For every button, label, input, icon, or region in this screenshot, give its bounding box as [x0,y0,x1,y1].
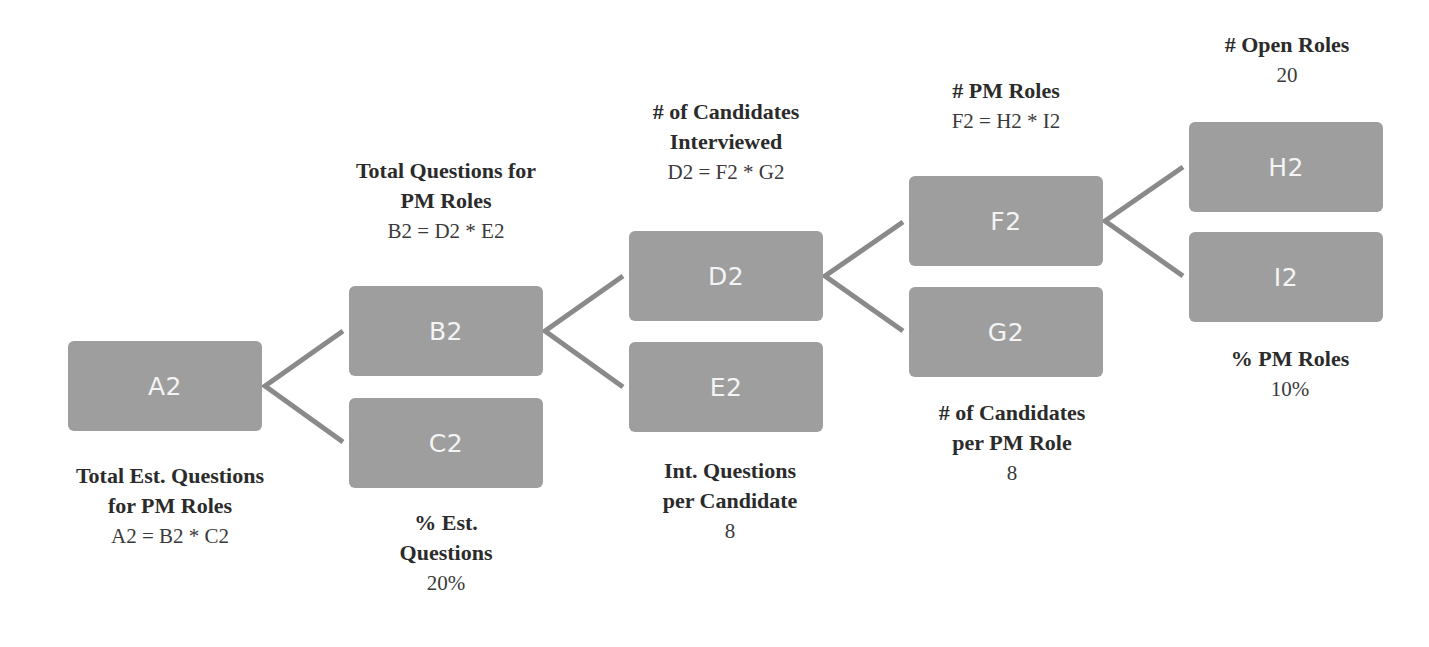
node-d2-id: D2 [708,262,744,291]
connector-d2-f2-g2 [825,222,903,331]
connector-a2-b2-c2 [265,331,343,442]
node-b2: B2 [349,286,543,376]
label-f2-value: F2 = H2 * I2 [856,106,1156,136]
node-i2: I2 [1189,232,1383,322]
label-c2-title-2: Questions [296,538,596,568]
label-a2-title-1: Total Est. Questions [20,461,320,491]
label-e2: Int. Questions per Candidate 8 [580,456,880,546]
node-c2-id: C2 [429,429,463,458]
connector-f2-h2-i2 [1105,167,1183,276]
label-e2-value: 8 [580,516,880,546]
node-g2-id: G2 [988,318,1024,347]
label-h2: # Open Roles 20 [1137,30,1429,90]
node-b2-id: B2 [429,317,463,346]
label-c2-value: 20% [296,568,596,598]
node-i2-id: I2 [1274,263,1298,292]
node-c2: C2 [349,398,543,488]
node-e2-id: E2 [710,373,743,402]
label-a2: Total Est. Questions for PM Roles A2 = B… [20,461,320,551]
label-h2-title-1: # Open Roles [1137,30,1429,60]
label-b2-title-2: PM Roles [296,186,596,216]
label-d2-title-1: # of Candidates [576,97,876,127]
label-i2-title-1: % PM Roles [1140,344,1429,374]
label-g2-title-1: # of Candidates [862,398,1162,428]
label-d2-title-2: Interviewed [576,127,876,157]
node-h2-id: H2 [1268,153,1304,182]
node-a2: A2 [68,341,262,431]
node-f2: F2 [909,176,1103,266]
connector-b2-d2-e2 [545,276,623,387]
node-a2-id: A2 [148,372,182,401]
label-f2-title-1: # PM Roles [856,76,1156,106]
label-d2-value: D2 = F2 * G2 [576,157,876,187]
label-e2-title-2: per Candidate [580,486,880,516]
node-g2: G2 [909,287,1103,377]
label-d2: # of Candidates Interviewed D2 = F2 * G2 [576,97,876,187]
label-g2-title-2: per PM Role [862,428,1162,458]
label-i2-value: 10% [1140,374,1429,404]
label-b2: Total Questions for PM Roles B2 = D2 * E… [296,156,596,246]
label-c2-title-1: % Est. [296,508,596,538]
node-h2: H2 [1189,122,1383,212]
label-i2: % PM Roles 10% [1140,344,1429,404]
node-d2: D2 [629,231,823,321]
label-b2-title-1: Total Questions for [296,156,596,186]
label-h2-value: 20 [1137,60,1429,90]
label-f2: # PM Roles F2 = H2 * I2 [856,76,1156,136]
label-e2-title-1: Int. Questions [580,456,880,486]
label-c2: % Est. Questions 20% [296,508,596,598]
label-a2-title-2: for PM Roles [20,491,320,521]
label-b2-value: B2 = D2 * E2 [296,216,596,246]
label-a2-value: A2 = B2 * C2 [20,521,320,551]
node-e2: E2 [629,342,823,432]
node-f2-id: F2 [990,207,1021,236]
label-g2: # of Candidates per PM Role 8 [862,398,1162,488]
label-g2-value: 8 [862,458,1162,488]
